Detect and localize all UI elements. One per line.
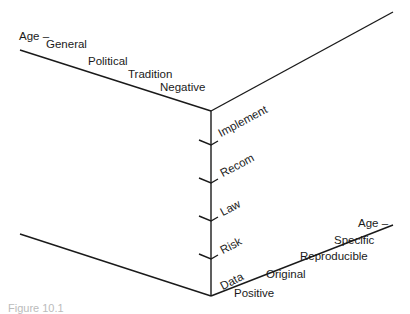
label-original: Original (266, 269, 306, 281)
label-specific: Specific (334, 235, 374, 247)
label-age-general-1: Age – (19, 31, 49, 43)
tick-mark (199, 216, 218, 221)
tick-mark (199, 140, 218, 145)
figure-caption: Figure 10.1 (8, 302, 64, 314)
tick-mark (199, 178, 218, 183)
label-negative: Negative (160, 82, 205, 94)
tick-mark (199, 254, 218, 259)
upper-right-axis-line (211, 12, 393, 111)
label-age-specific: Age – (358, 218, 388, 230)
label-political: Political (88, 56, 128, 68)
label-general: General (46, 39, 87, 51)
label-positive: Positive (234, 288, 274, 300)
label-reproducible: Reproducible (300, 251, 368, 263)
lower-left-axis-line (20, 234, 211, 296)
label-tradition: Tradition (128, 69, 172, 81)
